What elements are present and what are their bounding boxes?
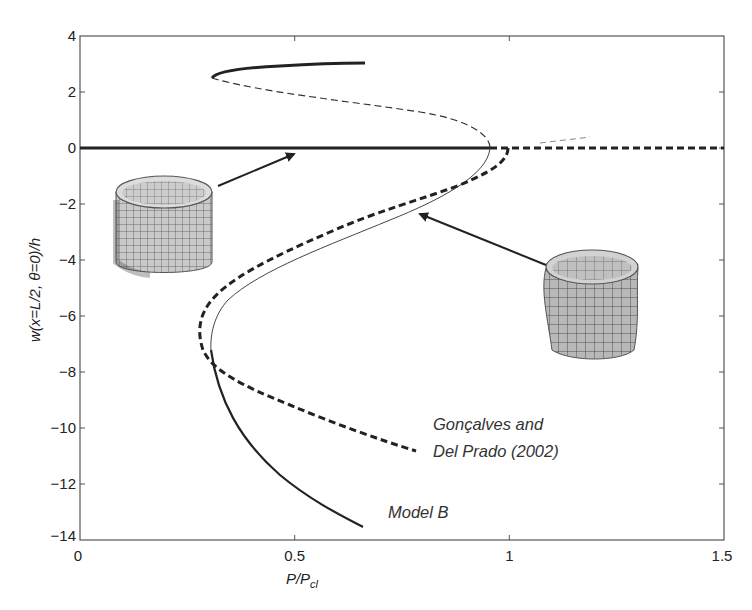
- x-tick-labels: 0 0.5 1 1.5: [74, 547, 733, 564]
- goncalves-del-prado-curve: [200, 148, 508, 451]
- model-b-unstable-branch-lower: [211, 148, 490, 350]
- y-tick-label: 2: [68, 83, 76, 100]
- y-tick-label: −10: [51, 419, 76, 436]
- x-axis-label: P/Pcl: [286, 570, 319, 590]
- y-tick-labels: 4 2 0 −2 −4 −6 −8 −10 −12 −14: [51, 27, 76, 544]
- x-tick-label: 1.5: [712, 547, 733, 564]
- faint-dashed-fragment: [540, 137, 590, 143]
- chart: 4 2 0 −2 −4 −6 −8 −10 −12 −14 0 0.5 1 1.…: [0, 0, 752, 610]
- y-tick-label: −12: [51, 475, 76, 492]
- arrow-to-trivial-branch: [218, 154, 294, 186]
- goncalves-label-line2: Del Prado (2002): [433, 442, 559, 460]
- model-b-label: Model B: [388, 503, 449, 521]
- y-tick-label: 4: [68, 27, 76, 44]
- y-tick-label: 0: [68, 139, 76, 156]
- y-tick-label: −6: [59, 307, 76, 324]
- model-b-lower-branch: [211, 350, 363, 527]
- y-tick-label: −14: [51, 527, 76, 544]
- y-tick-label: −8: [59, 363, 76, 380]
- y-axis-label: w(x=L/2, θ=0)/h: [26, 238, 43, 342]
- y-tick-label: −2: [59, 195, 76, 212]
- x-tick-label: 0: [74, 547, 82, 564]
- model-b-upper-branch: [212, 63, 365, 78]
- x-tick-label: 0.5: [284, 547, 305, 564]
- model-b-unstable-branch: [212, 78, 490, 148]
- y-tick-label: −4: [59, 251, 76, 268]
- arrow-to-buckled-branch: [420, 214, 546, 265]
- goncalves-label-line1: Gonçalves and: [433, 415, 544, 433]
- x-tick-label: 1: [505, 547, 513, 564]
- x-ticks: [295, 36, 510, 540]
- undeformed-shell-inset: [116, 176, 212, 275]
- buckled-shell-inset: [544, 250, 638, 359]
